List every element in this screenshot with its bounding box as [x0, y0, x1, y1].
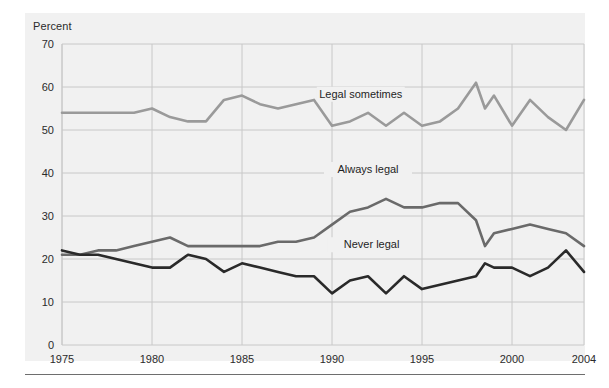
x-tick-1975: 1975 [50, 353, 74, 365]
y-tick-70: 70 [42, 38, 54, 50]
y-tick-50: 50 [42, 124, 54, 136]
series-line-always-legal [62, 199, 584, 255]
y-tick-10: 10 [42, 296, 54, 308]
x-tick-1990: 1990 [320, 353, 344, 365]
x-tick-labels: 1975198019851990199520002004 [50, 353, 596, 365]
series-label-legal-sometimes: Legal sometimes [319, 88, 403, 100]
x-tick-1995: 1995 [410, 353, 434, 365]
x-tick-1985: 1985 [230, 353, 254, 365]
y-tick-30: 30 [42, 210, 54, 222]
series-label-always-legal: Always legal [337, 163, 398, 175]
y-tick-20: 20 [42, 253, 54, 265]
x-tick-2004: 2004 [572, 353, 596, 365]
y-tick-60: 60 [42, 81, 54, 93]
y-tick-labels: 010203040506070 [42, 38, 54, 351]
series-lines [62, 83, 584, 294]
bottom-rule [25, 374, 585, 375]
x-tick-2000: 2000 [500, 353, 524, 365]
y-tick-0: 0 [48, 339, 54, 351]
y-tick-40: 40 [42, 167, 54, 179]
series-label-never-legal: Never legal [344, 238, 400, 250]
chart-figure: Percent 010203040506070 1975198019851990… [0, 0, 609, 388]
series-line-never-legal [62, 250, 584, 293]
line-chart-svg: 010203040506070 197519801985199019952000… [0, 0, 609, 388]
x-tick-1980: 1980 [140, 353, 164, 365]
